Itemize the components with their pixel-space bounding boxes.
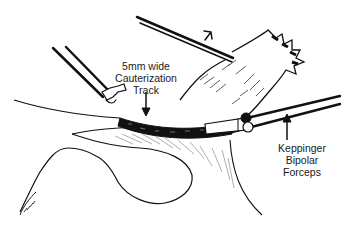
cauterization-track-label: 5mm wide Cauterization Track: [101, 60, 191, 96]
cauterization-label-line2: Cauterization: [101, 72, 191, 84]
forceps-label-line1: Keppinger: [257, 142, 347, 154]
forceps-label: Keppinger Bipolar Forceps: [257, 142, 347, 178]
keppinger-bipolar-forceps: [205, 96, 340, 134]
mesosalpinx: [14, 100, 262, 215]
forceps-label-line3: Forceps: [257, 166, 347, 178]
forceps-label-line2: Bipolar: [257, 154, 347, 166]
cauterization-label-line1: 5mm wide: [101, 60, 191, 72]
motion-arrow-icon: [204, 31, 212, 40]
tubal-cauterization-illustration: [0, 0, 355, 237]
grasping-forceps-top: [137, 17, 233, 62]
cauterization-label-line3: Track: [101, 84, 191, 96]
